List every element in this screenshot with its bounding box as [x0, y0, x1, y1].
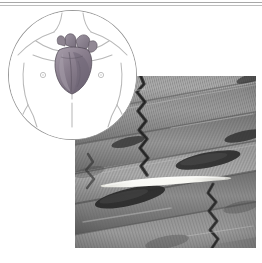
- figure-root: [0, 0, 262, 263]
- anatomical-location-inset: [8, 10, 137, 140]
- top-rule-upper: [0, 2, 262, 3]
- top-rule-lower: [0, 5, 262, 6]
